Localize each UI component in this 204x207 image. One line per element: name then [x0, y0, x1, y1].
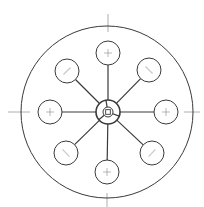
spoke-nw — [75, 79, 99, 103]
spoke-ne — [116, 79, 140, 104]
satellite-w — [38, 100, 62, 124]
satellite-sw — [54, 141, 78, 165]
satellite-se — [140, 141, 164, 165]
hub-and-spoke-diagram — [0, 0, 204, 207]
spoke-sw — [75, 120, 100, 144]
spoke-se — [117, 120, 143, 145]
spoke-s — [107, 124, 108, 160]
center-hub — [96, 100, 120, 124]
satellite-s — [95, 160, 119, 184]
hub-outer-ring — [96, 100, 120, 124]
satellite-n — [96, 41, 120, 65]
diagram-canvas — [0, 0, 204, 207]
satellite-e — [154, 100, 178, 124]
satellite-ne — [137, 58, 161, 82]
satellite-nw — [55, 59, 79, 83]
